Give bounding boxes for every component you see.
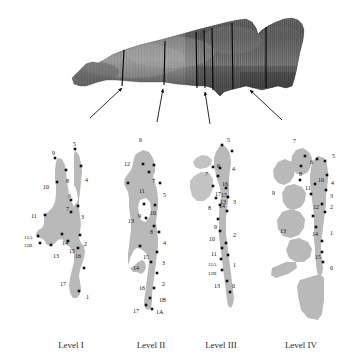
- level-4-scroll-left: [273, 159, 295, 185]
- landmark-label: 5: [332, 153, 335, 159]
- landmark-marker: [37, 235, 40, 238]
- landmark-marker: [80, 165, 83, 168]
- landmark-label: 7: [66, 206, 69, 212]
- landmark-label: 5: [163, 192, 166, 198]
- landmark-label: 2: [162, 281, 165, 287]
- landmark-label: 2: [330, 204, 333, 210]
- landmark-label: 0: [330, 265, 333, 271]
- landmark-marker: [225, 187, 228, 190]
- caption-level-3: Level III: [181, 340, 261, 350]
- landmark-label: 4: [232, 166, 235, 172]
- level-4-scroll-mid: [282, 184, 306, 210]
- arrow-level-1: [90, 88, 122, 118]
- landmark-marker: [139, 245, 142, 248]
- landmark-label: 11: [139, 188, 145, 194]
- landmark-marker: [153, 287, 156, 290]
- landmark-marker: [326, 174, 329, 177]
- landmark-marker: [315, 226, 318, 229]
- landmark-label: 12A: [24, 235, 33, 240]
- landmark-label: 4: [331, 180, 334, 186]
- landmark-label: 1: [330, 230, 333, 236]
- landmark-marker: [300, 165, 303, 168]
- landmark-marker: [156, 272, 159, 275]
- landmark-label: 8: [150, 229, 153, 235]
- landmark-label: 14: [133, 265, 139, 271]
- landmark-label: 11: [211, 251, 217, 257]
- landmark-label: 3: [81, 214, 84, 220]
- caption-level-4: Level IV: [261, 340, 341, 350]
- landmark-label: 13: [220, 199, 226, 205]
- landmark-label: 5: [227, 137, 230, 143]
- landmark-label: 7: [205, 171, 208, 177]
- caption-level-1: Level I: [31, 340, 111, 350]
- landmark-label: 15: [143, 254, 149, 260]
- landmark-marker: [61, 233, 64, 236]
- landmark-marker: [158, 231, 161, 234]
- landmark-marker: [225, 242, 228, 245]
- landmark-label: 2: [233, 232, 236, 238]
- landmark-marker: [153, 164, 156, 167]
- landmark-marker: [150, 261, 153, 264]
- landmark-label: 10: [43, 184, 49, 190]
- landmark-marker: [159, 182, 162, 185]
- landmark-marker: [321, 203, 324, 206]
- landmark-label: 2: [84, 241, 87, 247]
- level-1-section: [36, 150, 85, 298]
- landmark-label: 0: [232, 283, 235, 289]
- landmark-marker: [227, 196, 230, 199]
- landmark-marker: [156, 251, 159, 254]
- landmark-label: 13: [128, 218, 134, 224]
- landmark-marker: [322, 261, 325, 264]
- landmark-marker: [78, 290, 81, 293]
- landmark-marker: [321, 251, 324, 254]
- arrow-level-4: [250, 90, 282, 120]
- landmark-label: 12B: [24, 243, 32, 248]
- landmark-marker: [74, 148, 77, 151]
- landmark-marker: [221, 144, 224, 147]
- landmark-label: 17: [60, 281, 66, 287]
- landmark-label: 12A: [208, 262, 217, 267]
- section-arrows: [90, 88, 282, 124]
- landmark-marker: [217, 218, 220, 221]
- landmark-label: 11: [31, 213, 37, 219]
- landmark-marker: [221, 247, 224, 250]
- landmark-marker: [215, 197, 218, 200]
- landmark-marker: [212, 166, 215, 169]
- landmark-label: 6: [68, 193, 71, 199]
- landmark-marker: [212, 185, 215, 188]
- landmark-label: 7: [293, 138, 296, 144]
- landmark-marker: [227, 254, 230, 257]
- landmark-marker: [39, 242, 42, 245]
- landmark-marker: [226, 280, 229, 283]
- landmark-label: 16: [139, 285, 145, 291]
- level-3-island-upper: [193, 155, 212, 169]
- landmark-label: 12: [313, 204, 319, 210]
- landmark-label: 9: [52, 150, 55, 156]
- landmark-marker: [127, 182, 130, 185]
- landmark-marker: [299, 179, 302, 182]
- landmark-marker: [314, 183, 317, 186]
- landmark-label: 9: [272, 190, 275, 196]
- landmark-marker: [148, 171, 151, 174]
- landmark-label: 9: [138, 213, 141, 219]
- landmark-marker: [304, 155, 307, 158]
- anatomical-section-figure: [0, 0, 355, 363]
- landmark-marker: [226, 210, 229, 213]
- landmark-label: 14: [62, 240, 68, 246]
- landmark-marker: [316, 158, 319, 161]
- landmark-label: 4: [163, 240, 166, 246]
- level-4-scroll-bottom: [286, 238, 312, 262]
- landmark-label: 4: [85, 177, 88, 183]
- landmark-marker: [220, 258, 223, 261]
- landmark-marker: [50, 244, 53, 247]
- landmark-marker: [149, 297, 152, 300]
- landmark-label: 8: [299, 171, 302, 177]
- landmark-marker: [142, 163, 145, 166]
- arrow-level-2: [157, 89, 163, 122]
- landmark-label: 1: [86, 294, 89, 300]
- landmark-label: 3: [162, 260, 165, 266]
- landmark-marker: [56, 181, 59, 184]
- landmark-label: 1B: [159, 297, 166, 303]
- landmark-marker: [70, 211, 73, 214]
- landmark-marker: [143, 203, 146, 206]
